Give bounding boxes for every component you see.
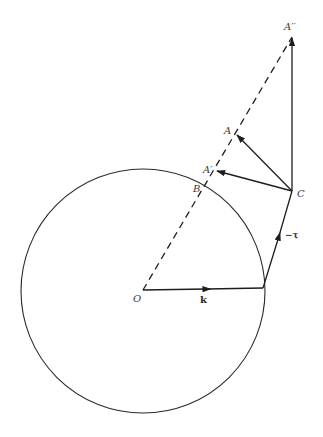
circle [21, 169, 265, 413]
label-minus-tau: −τ [285, 230, 299, 240]
label-o: O [133, 293, 141, 304]
label-a: A [223, 125, 231, 136]
vector-c-to-a-prime [217, 171, 292, 191]
dashed-radial-line [143, 37, 292, 290]
label-b: B [192, 183, 200, 194]
label-c: C [297, 188, 305, 199]
label-a-double-prime: A′′ [283, 21, 296, 32]
vector-diagram: O k −τ C A A′ B A′′ [0, 0, 323, 437]
vector-c-to-a [237, 135, 292, 191]
label-k: k [200, 294, 208, 305]
vector-k [143, 288, 263, 290]
label-a-prime: A′ [202, 164, 213, 175]
